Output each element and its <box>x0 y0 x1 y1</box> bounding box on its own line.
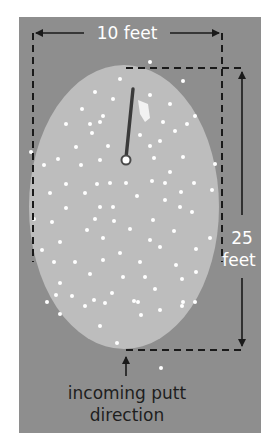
width-label: 10 feet <box>97 23 158 43</box>
length-label-number: 25 <box>231 228 253 248</box>
hole-icon <box>122 156 131 165</box>
length-label-unit: feet <box>222 250 256 270</box>
putting-green <box>29 65 219 349</box>
putt-label-line2: direction <box>90 405 165 425</box>
putting-green-diagram: 10 feet 25 feet incoming putt direction <box>0 0 269 443</box>
putt-label-line1: incoming putt <box>68 383 187 403</box>
